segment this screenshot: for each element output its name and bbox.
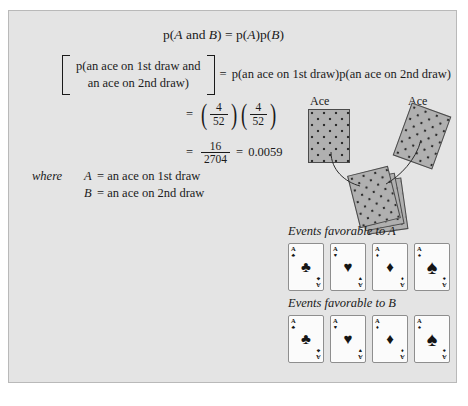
bracket-line-bottom: an ace on 2nd draw): [88, 75, 189, 92]
card-rank: A: [358, 282, 363, 288]
ace-of-clubs-card-b: A ♣ ♣ A ♣: [288, 315, 324, 363]
ace-of-diamonds-card-b: A ♦ ♦ A ♦: [372, 315, 408, 363]
card-corner-bottom-right: A ♥: [358, 276, 363, 288]
definition-text: an ace on 2nd draw: [107, 186, 204, 200]
clubs-icon: ♣: [317, 348, 321, 353]
bracket-left-icon: [62, 55, 70, 95]
equals-sign-4: =: [186, 145, 193, 160]
diamonds-icon: ♦: [376, 253, 379, 258]
bracket-right-icon: [207, 55, 215, 95]
card-rank: A: [316, 282, 321, 288]
diamonds-icon: ♦: [373, 260, 407, 275]
card-rank: A: [442, 282, 447, 288]
card-corner-bottom-right: A ♣: [316, 348, 321, 360]
prob-function-2: p: [236, 27, 243, 42]
card-corner-top-left: A ♥: [333, 246, 338, 258]
fraction-four-fifty-two-1: 4 52: [210, 101, 228, 127]
clubs-icon: ♣: [292, 253, 296, 258]
ace-of-spades-card-a: A ♠ ♠ A ♠: [414, 243, 450, 291]
equals-sign-2: =: [220, 67, 227, 82]
card-corner-top-left: A ♦: [375, 246, 380, 258]
diamonds-icon: ♦: [373, 332, 407, 347]
events-favorable-a-label: Events favorable to A: [288, 224, 396, 239]
prob-function: p: [163, 27, 170, 42]
equals-sign: =: [97, 169, 104, 183]
paren-close-1: ): [230, 100, 236, 129]
ace-row-a: A ♣ ♣ A ♣ A ♥ ♥ A ♥ A ♦ ♦: [288, 243, 450, 291]
definition-text: an ace on 1st draw: [107, 169, 200, 183]
hearts-icon: ♥: [334, 325, 337, 330]
definition-symbol: A: [84, 169, 97, 184]
fraction-four-fifty-two-2: 4 52: [250, 101, 268, 127]
clubs-icon: ♣: [289, 332, 323, 347]
fraction-sixteen-over-2704: 16 2704: [201, 140, 230, 166]
card-rank: A: [358, 354, 363, 360]
paren-close-2: ): [270, 100, 276, 129]
definition-b: B= an ace on 2nd draw: [84, 186, 204, 201]
card-corner-top-left: A ♥: [333, 318, 338, 330]
card-corner-top-left: A ♣: [291, 246, 296, 258]
numerator: 16: [207, 140, 225, 152]
rparen: ): [217, 27, 222, 42]
hearts-icon: ♥: [359, 348, 362, 353]
card-rank: A: [442, 354, 447, 360]
spades-icon: ♠: [415, 329, 449, 349]
diamonds-icon: ♦: [376, 325, 379, 330]
equation-line-1: p(A and B) = p(A)p(B): [0, 27, 447, 43]
expanded-product: p(an ace on 1st draw)p(an ace on 2nd dra…: [232, 67, 451, 82]
ace-of-clubs-card-a: A ♣ ♣ A ♣: [288, 243, 324, 291]
clubs-icon: ♣: [289, 260, 323, 275]
events-favorable-b-label: Events favorable to B: [288, 296, 396, 311]
equation-line-2: p(an ace on 1st draw and an ace on 2nd d…: [62, 55, 451, 95]
hearts-icon: ♥: [359, 276, 362, 281]
card-corner-bottom-right: A ♥: [358, 348, 363, 360]
card-corner-bottom-right: A ♠: [442, 276, 447, 288]
equation-line-3: = ( 4 52 ) ( 4 52 ): [186, 100, 278, 129]
card-corner-top-left: A ♣: [291, 318, 296, 330]
where-label: where: [32, 169, 62, 184]
denominator: 52: [250, 114, 268, 127]
denominator: 2704: [201, 152, 230, 165]
ace-row-b: A ♣ ♣ A ♣ A ♥ ♥ A ♥ A ♦ ♦: [288, 315, 450, 363]
paren-open-2: (: [240, 100, 246, 129]
equals-sign: =: [225, 27, 233, 42]
card-corner-bottom-right: A ♠: [442, 348, 447, 360]
card-rank: A: [316, 354, 321, 360]
equation-line-4: = 16 2704 = 0.0059: [186, 140, 283, 166]
card-rank: A: [400, 354, 405, 360]
denominator: 52: [210, 114, 228, 127]
spades-icon: ♠: [443, 276, 446, 281]
variable-a: A: [174, 27, 182, 42]
spades-icon: ♠: [415, 257, 449, 277]
definition-symbol: B: [84, 186, 97, 201]
numerator: 4: [213, 101, 225, 113]
diamonds-icon: ♦: [401, 348, 404, 353]
card-corner-bottom-right: A ♦: [400, 348, 405, 360]
rparen-3: ): [279, 27, 284, 42]
prob-function-3: p: [260, 27, 267, 42]
ace-label-left: Ace: [310, 94, 329, 109]
bracket-line-top: p(an ace on 1st draw and: [76, 58, 201, 75]
equals-sign: =: [97, 186, 104, 200]
ace-of-hearts-card-b: A ♥ ♥ A ♥: [330, 315, 366, 363]
spades-icon: ♠: [443, 348, 446, 353]
figure-canvas: p(A and B) = p(A)p(B) p(an ace on 1st dr…: [0, 0, 468, 406]
numerator: 4: [252, 101, 264, 113]
ace-of-spades-card-b: A ♠ ♠ A ♠: [414, 315, 450, 363]
ace-of-hearts-card-a: A ♥ ♥ A ♥: [330, 243, 366, 291]
equals-sign-3: =: [186, 107, 193, 122]
hearts-icon: ♥: [331, 332, 365, 347]
hearts-icon: ♥: [331, 260, 365, 275]
card-rank: A: [400, 282, 405, 288]
bracket-contents: p(an ace on 1st draw and an ace on 2nd d…: [74, 55, 203, 95]
equals-sign-5: =: [236, 145, 243, 160]
variable-b: B: [209, 27, 217, 42]
definition-a: A= an ace on 1st draw: [84, 169, 200, 184]
paren-open-1: (: [201, 100, 207, 129]
face-down-card-left: [308, 109, 350, 163]
card-corner-bottom-right: A ♣: [316, 276, 321, 288]
ace-of-diamonds-card-a: A ♦ ♦ A ♦: [372, 243, 408, 291]
probability-result: 0.0059: [248, 145, 282, 160]
conjunction-and: and: [183, 27, 209, 42]
clubs-icon: ♣: [292, 325, 296, 330]
